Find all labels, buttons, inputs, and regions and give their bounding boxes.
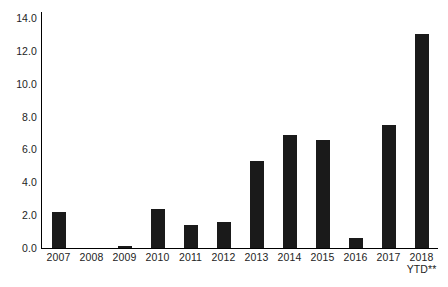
x-tick-label-text: 2008	[80, 251, 104, 263]
bar	[52, 0, 66, 249]
x-tick-label-text: 2011	[179, 251, 202, 263]
y-tick-label: 12.0	[0, 46, 37, 56]
x-tick-label-text: 2017	[377, 251, 401, 263]
bar-rect	[415, 34, 429, 248]
bar	[217, 0, 231, 249]
x-axis: 2007200820092010201120122013201420152016…	[42, 251, 438, 287]
y-tick-label: 2.0	[0, 210, 37, 220]
x-tick-sublabel: YTD**	[399, 263, 444, 275]
bar	[415, 0, 429, 249]
y-tick-label: 0.0	[0, 243, 37, 253]
y-tick-label: 4.0	[0, 177, 37, 187]
x-tick-label-text: 2007	[47, 251, 71, 263]
x-tick-label-text: 2013	[245, 251, 269, 263]
x-tick-label-text: 2014	[278, 251, 302, 263]
bar-rect	[217, 222, 231, 248]
bar	[85, 0, 99, 249]
bar	[349, 0, 363, 249]
bars-layer	[42, 0, 438, 249]
bar-rect	[52, 212, 66, 248]
y-tick-label: 10.0	[0, 79, 37, 89]
x-tick-label-text: 2015	[311, 251, 335, 263]
x-tick-label-text: 2018	[410, 251, 434, 263]
bar	[250, 0, 264, 249]
x-tick-label-text: 2012	[212, 251, 236, 263]
x-tick-label-text: 2010	[146, 251, 170, 263]
bar	[118, 0, 132, 249]
y-tick-label: 8.0	[0, 112, 37, 122]
bar-rect	[382, 125, 396, 248]
bar	[316, 0, 330, 249]
y-axis: 0.02.04.06.08.010.012.014.0	[0, 0, 40, 287]
y-tick-label: 14.0	[0, 13, 37, 23]
x-tick-label-text: 2016	[344, 251, 368, 263]
bar	[151, 0, 165, 249]
bar-rect	[250, 161, 264, 248]
bar	[283, 0, 297, 249]
y-tick-label: 6.0	[0, 144, 37, 154]
bar-rect	[184, 225, 198, 248]
bar	[382, 0, 396, 249]
bar-rect	[151, 209, 165, 248]
bar-chart: 0.02.04.06.08.010.012.014.0 200720082009…	[0, 0, 448, 287]
bar-rect	[118, 246, 132, 248]
bar-rect	[316, 140, 330, 248]
x-tick-label-text: 2009	[113, 251, 137, 263]
bar-rect	[349, 238, 363, 248]
bar-rect	[283, 135, 297, 248]
x-tick-label: 2018YTD**	[399, 251, 444, 275]
bar	[184, 0, 198, 249]
